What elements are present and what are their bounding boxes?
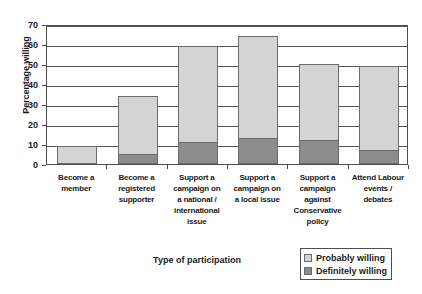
- bar-segment-probably-willing: [299, 64, 339, 140]
- x-label-line: member: [46, 183, 106, 194]
- x-label-line: Become a: [46, 172, 106, 183]
- y-tick-label: 60: [8, 41, 38, 50]
- y-tick-mark: [42, 25, 46, 26]
- x-label-line: a local issue: [227, 194, 287, 205]
- x-label-line: Attend Labour: [348, 172, 408, 183]
- bar-segment-probably-willing: [178, 46, 218, 142]
- bar-group: [118, 26, 158, 164]
- bar-stack: [238, 36, 278, 164]
- bar-segment-definitely-willing: [299, 140, 339, 164]
- y-tick-mark: [42, 125, 46, 126]
- bar-segment-definitely-willing: [178, 142, 218, 164]
- x-label-line: supporter: [106, 194, 166, 205]
- y-tick-label: 20: [8, 121, 38, 130]
- legend-label-probably-willing: Probably willing: [316, 253, 385, 263]
- bar-segment-probably-willing: [118, 96, 158, 154]
- x-axis-category-label: Support acampaign ona local issue: [227, 172, 287, 205]
- stacked-bar-chart: Percentage willing 010203040506070 Becom…: [0, 0, 422, 294]
- bar-segment-definitely-willing: [118, 154, 158, 164]
- x-label-line: policy: [287, 216, 347, 227]
- bar-stack: [359, 66, 399, 164]
- x-label-line: Become a: [106, 172, 166, 183]
- x-axis-category-label: Become aregisteredsupporter: [106, 172, 166, 205]
- bar-segment-definitely-willing: [238, 138, 278, 164]
- y-tick-mark: [42, 65, 46, 66]
- x-label-line: campaign on: [167, 183, 227, 194]
- x-label-line: Support a: [167, 172, 227, 183]
- bar-segment-probably-willing: [57, 146, 97, 164]
- y-tick-mark: [42, 45, 46, 46]
- x-label-line: Support a: [287, 172, 347, 183]
- bar-stack: [57, 146, 97, 164]
- y-tick-mark: [42, 85, 46, 86]
- y-tick-label: 40: [8, 81, 38, 90]
- bar-segment-probably-willing: [238, 36, 278, 138]
- bar-group: [238, 26, 278, 164]
- plot-area: [46, 25, 408, 165]
- x-axis-category-label: Attend Labourevents /debates: [348, 172, 408, 205]
- y-tick-mark: [42, 165, 46, 166]
- x-label-line: events /: [348, 183, 408, 194]
- bar-segment-definitely-willing: [359, 150, 399, 164]
- x-axis-title: Type of participation: [122, 255, 272, 265]
- bar-group: [359, 26, 399, 164]
- y-tick-label: 50: [8, 61, 38, 70]
- x-tick-mark: [167, 165, 168, 169]
- y-tick-mark: [42, 145, 46, 146]
- legend-swatch-definitely-willing: [304, 267, 312, 275]
- legend-label-definitely-willing: Definitely willing: [316, 266, 387, 276]
- legend-item-probably-willing: Probably willing: [304, 251, 387, 264]
- legend-item-definitely-willing: Definitely willing: [304, 264, 387, 277]
- bar-stack: [299, 64, 339, 164]
- chart-legend: Probably willing Definitely willing: [300, 248, 392, 280]
- bar-group: [299, 26, 339, 164]
- bar-segment-probably-willing: [359, 66, 399, 150]
- x-axis-category-label: Support acampaignagainstConservativepoli…: [287, 172, 347, 227]
- x-label-line: Conservative: [287, 205, 347, 216]
- x-tick-mark: [408, 165, 409, 169]
- x-label-line: a national /: [167, 194, 227, 205]
- legend-swatch-probably-willing: [304, 254, 312, 262]
- x-label-line: Support a: [227, 172, 287, 183]
- bar-stack: [118, 96, 158, 164]
- bar-group: [178, 26, 218, 164]
- x-axis-category-label: Support acampaign ona national /internat…: [167, 172, 227, 227]
- y-tick-label: 0: [8, 161, 38, 170]
- x-label-line: against: [287, 194, 347, 205]
- bar-group: [57, 26, 97, 164]
- x-label-line: international: [167, 205, 227, 216]
- y-tick-mark: [42, 105, 46, 106]
- x-label-line: registered: [106, 183, 166, 194]
- x-label-line: campaign on: [227, 183, 287, 194]
- x-tick-mark: [106, 165, 107, 169]
- y-tick-label: 10: [8, 141, 38, 150]
- bar-stack: [178, 46, 218, 164]
- x-tick-mark: [348, 165, 349, 169]
- x-label-line: campaign: [287, 183, 347, 194]
- x-label-line: issue: [167, 216, 227, 227]
- x-axis-category-label: Become amember: [46, 172, 106, 194]
- y-tick-label: 70: [8, 21, 38, 30]
- y-tick-label: 30: [8, 101, 38, 110]
- bars-layer: [47, 26, 407, 164]
- x-tick-mark: [287, 165, 288, 169]
- x-tick-mark: [227, 165, 228, 169]
- x-label-line: debates: [348, 194, 408, 205]
